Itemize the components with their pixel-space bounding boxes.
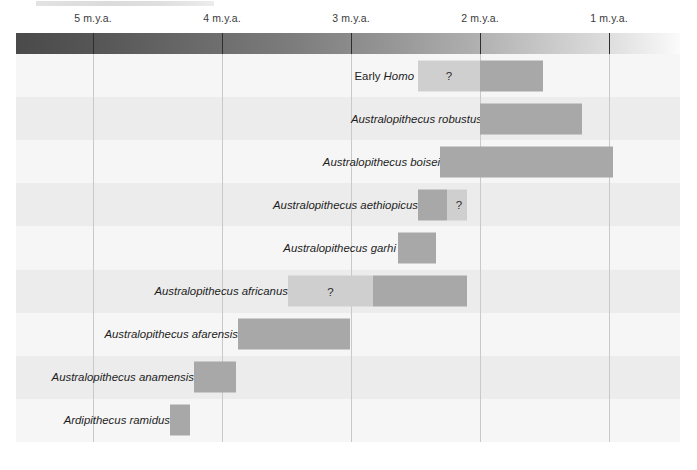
uncertain-question-mark: ?	[288, 285, 373, 297]
range-solid-australopithecus-aethiopicus[interactable]	[418, 189, 447, 220]
range-solid-australopithecus-robustus[interactable]	[480, 103, 582, 134]
uncertain-question-mark: ?	[451, 199, 467, 211]
axis-tick-1mya	[609, 33, 610, 54]
range-solid-australopithecus-garhi[interactable]	[398, 232, 436, 263]
taxon-label-early-homo: Early Homo	[354, 70, 414, 82]
taxon-label-australopithecus-afarensis: Australopithecus afarensis	[104, 328, 238, 340]
taxon-label-australopithecus-boisei: Australopithecus boisei	[323, 156, 440, 168]
axis-tick-label-5mya: 5 m.y.a.	[74, 12, 111, 24]
range-solid-australopithecus-boisei[interactable]	[440, 146, 613, 177]
timeline-row-australopithecus-boisei[interactable]: Australopithecus boisei	[16, 140, 680, 183]
time-gradient-bar	[16, 33, 680, 54]
range-uncertain-australopithecus-africanus[interactable]: ?	[288, 276, 373, 307]
range-solid-australopithecus-africanus[interactable]	[373, 276, 467, 307]
axis-tick-label-4mya: 4 m.y.a.	[203, 12, 240, 24]
timeline-row-australopithecus-africanus[interactable]: Australopithecus africanus ?	[16, 270, 680, 313]
timeline-row-australopithecus-robustus[interactable]: Australopithecus robustus	[16, 97, 680, 140]
timeline-plot-area: Early Homo ? Australopithecus robustus A…	[16, 54, 680, 442]
axis-tick-label-3mya: 3 m.y.a.	[332, 12, 369, 24]
timeline-row-australopithecus-garhi[interactable]: Australopithecus garhi	[16, 226, 680, 269]
axis-tick-label-2mya: 2 m.y.a.	[461, 12, 498, 24]
taxon-label-australopithecus-aethiopicus: Australopithecus aethiopicus	[273, 199, 418, 211]
time-axis-labels: 5 m.y.a. 4 m.y.a. 3 m.y.a. 2 m.y.a. 1 m.…	[0, 12, 697, 28]
axis-tick-2mya	[480, 33, 481, 54]
scan-artifact-strip	[36, 1, 214, 6]
range-solid-australopithecus-afarensis[interactable]	[238, 319, 350, 350]
taxon-label-australopithecus-africanus: Australopithecus africanus	[154, 285, 288, 297]
timeline-row-early-homo[interactable]: Early Homo ?	[16, 54, 680, 97]
taxon-label-ardipithecus-ramidus: Ardipithecus ramidus	[64, 414, 170, 426]
figure-root: 5 m.y.a. 4 m.y.a. 3 m.y.a. 2 m.y.a. 1 m.…	[0, 0, 697, 470]
range-solid-ardipithecus-ramidus[interactable]	[170, 405, 190, 436]
uncertain-question-mark: ?	[418, 70, 480, 82]
timeline-row-australopithecus-aethiopicus[interactable]: Australopithecus aethiopicus ?	[16, 183, 680, 226]
timeline-row-australopithecus-anamensis[interactable]: Australopithecus anamensis	[16, 356, 680, 399]
axis-tick-4mya	[222, 33, 223, 54]
axis-tick-3mya	[351, 33, 352, 54]
taxon-label-australopithecus-anamensis: Australopithecus anamensis	[52, 371, 194, 383]
timeline-row-ardipithecus-ramidus[interactable]: Ardipithecus ramidus	[16, 399, 680, 442]
axis-tick-label-1mya: 1 m.y.a.	[590, 12, 627, 24]
axis-tick-5mya	[93, 33, 94, 54]
range-uncertain-early-homo[interactable]: ?	[418, 60, 480, 91]
range-solid-australopithecus-anamensis[interactable]	[194, 362, 236, 393]
taxon-label-australopithecus-robustus: Australopithecus robustus	[351, 113, 482, 125]
range-uncertain-australopithecus-aethiopicus[interactable]: ?	[447, 189, 467, 220]
range-solid-early-homo[interactable]	[480, 60, 543, 91]
timeline-row-australopithecus-afarensis[interactable]: Australopithecus afarensis	[16, 313, 680, 356]
taxon-label-australopithecus-garhi: Australopithecus garhi	[283, 242, 396, 254]
